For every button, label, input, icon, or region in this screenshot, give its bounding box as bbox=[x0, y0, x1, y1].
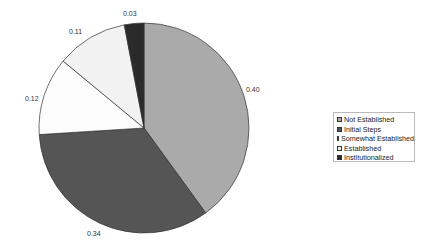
legend-label: Established bbox=[344, 144, 381, 153]
legend-label: Not Established bbox=[344, 115, 394, 124]
legend-label: Initial Steps bbox=[344, 125, 381, 134]
legend-swatch bbox=[337, 155, 342, 160]
legend-item-not-established: Not Established bbox=[337, 115, 414, 125]
legend-item-institutionalized: Institutionalized bbox=[337, 153, 414, 163]
legend-label: Somewhat Established bbox=[341, 134, 414, 143]
legend-swatch bbox=[337, 146, 342, 151]
legend-item-established: Established bbox=[337, 144, 414, 154]
data-label-established: 0.11 bbox=[69, 28, 82, 35]
legend-swatch bbox=[337, 136, 339, 141]
data-label-somewhat-established: 0.12 bbox=[25, 95, 39, 102]
legend-item-initial-steps: Initial Steps bbox=[337, 125, 414, 135]
legend-swatch bbox=[337, 117, 342, 122]
legend-item-somewhat-established: Somewhat Established bbox=[337, 134, 414, 144]
legend-swatch bbox=[337, 127, 342, 132]
data-label-not-established: 0.40 bbox=[246, 86, 260, 93]
data-label-initial-steps: 0.34 bbox=[87, 230, 101, 237]
data-label-institutionalized: 0.03 bbox=[123, 10, 137, 17]
chart-legend: Not Established Initial Steps Somewhat E… bbox=[333, 112, 415, 162]
legend-label: Institutionalized bbox=[344, 153, 394, 162]
